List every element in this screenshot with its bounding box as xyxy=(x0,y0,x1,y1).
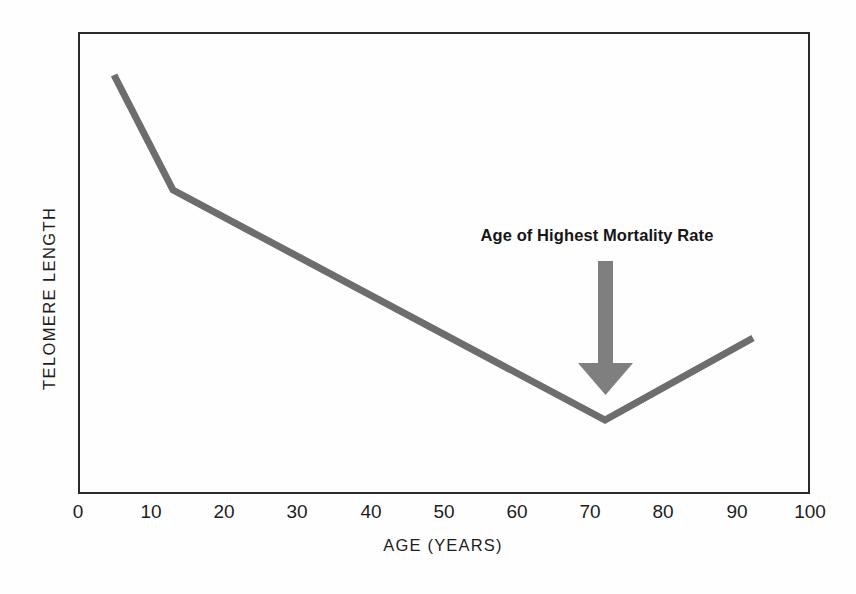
x-tick-label: 40 xyxy=(360,500,381,524)
x-axis-label: AGE (YEARS) xyxy=(0,536,856,555)
x-tick-label: 70 xyxy=(579,500,600,524)
telomere-length-chart: Age of Highest Mortality Rate TELOMERE L… xyxy=(0,0,856,594)
x-tick-label: 90 xyxy=(726,500,747,524)
x-tick-label: 50 xyxy=(433,500,454,524)
x-tick-label: 20 xyxy=(213,500,234,524)
x-tick-label: 30 xyxy=(286,500,307,524)
annotation-label: Age of Highest Mortality Rate xyxy=(347,226,847,245)
x-tick-label: 80 xyxy=(652,500,673,524)
plot-frame xyxy=(78,32,810,494)
y-axis-label: TELOMERE LENGTH xyxy=(38,90,60,390)
x-tick-label: 60 xyxy=(506,500,527,524)
x-tick-label: 100 xyxy=(794,500,826,524)
x-tick-label: 10 xyxy=(140,500,161,524)
x-tick-label: 0 xyxy=(73,500,84,524)
x-axis-tick-labels: 0102030405060708090100 xyxy=(0,500,856,526)
